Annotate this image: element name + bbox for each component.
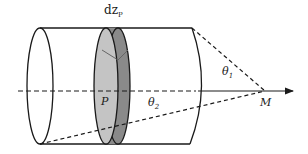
label-point-p: P [101, 96, 108, 107]
diagram-canvas: dzP P θ2 θ1 M [0, 0, 308, 154]
cylinder-diagram [0, 0, 308, 154]
label-theta2: θ2 [148, 97, 159, 111]
cylinder-right-end [190, 28, 202, 144]
line-top-to-m [192, 28, 265, 91]
disk-element-front [94, 28, 118, 144]
label-theta1: θ1 [222, 66, 233, 80]
cylinder-left-end [27, 28, 53, 144]
label-dz: dzP [104, 4, 123, 19]
label-point-m: M [260, 97, 271, 108]
